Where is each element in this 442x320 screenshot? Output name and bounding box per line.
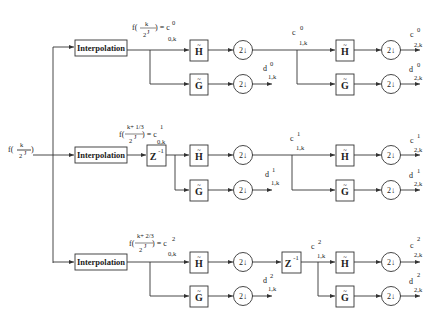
connector-line xyxy=(150,262,189,296)
diagram-label: 0 xyxy=(300,24,303,31)
diagram-label: ~ xyxy=(343,75,347,82)
diagram-label: 2↓ xyxy=(239,258,247,267)
diagram-label: Z xyxy=(285,258,292,269)
diagram-label: f( xyxy=(129,239,135,248)
diagram-label: 1 xyxy=(297,130,300,137)
connector-line xyxy=(318,262,335,296)
diagram-label: 2 xyxy=(417,235,420,242)
diagram-label: -1 xyxy=(158,147,163,154)
diagram-label: J xyxy=(147,28,150,35)
diagram-label: 2↓ xyxy=(387,292,395,301)
diagram-label: d xyxy=(263,64,267,73)
diagram-label: ~ xyxy=(197,287,201,294)
diagram-label: 2↓ xyxy=(239,80,247,89)
diagram-label: 0,k xyxy=(168,35,177,42)
diagram-label: 2↓ xyxy=(239,46,247,55)
diagram-label: -1 xyxy=(293,254,298,261)
diagram-label: 1 xyxy=(272,166,275,173)
diagram-label: 2 xyxy=(172,235,175,242)
diagram-label: ~ xyxy=(197,146,201,153)
diagram-label: 2↓ xyxy=(387,151,395,160)
diagram-label: 1,k xyxy=(271,179,280,186)
diagram-label: 1 xyxy=(417,132,420,139)
row-1: Interpolation f( k+ 1/3 2 J ) = c 1 0,k … xyxy=(53,123,423,201)
diagram-label: 0,k xyxy=(157,138,166,145)
diagram-label: ~ xyxy=(343,181,347,188)
diagram-label: d xyxy=(409,65,413,74)
diagram-label: f( xyxy=(119,130,125,139)
diagram-label: d xyxy=(265,170,269,179)
diagram-label: k+ 1/3 xyxy=(127,123,144,130)
diagram-label: f( xyxy=(8,145,14,154)
diagram-label: c xyxy=(311,242,315,251)
diagram-label: ~ xyxy=(343,146,347,153)
diagram-label: 2,k xyxy=(414,180,423,187)
filter-bank-diagram: f( k 2 J ) Interpolation f( k 2 J ) = c … xyxy=(0,0,442,320)
diagram-label: 2 xyxy=(19,152,22,159)
diagram-label: 1,k xyxy=(268,285,277,292)
diagram-label: c xyxy=(410,30,414,39)
diagram-label: 2,k xyxy=(414,74,423,81)
diagram-label: c xyxy=(410,241,414,250)
diagram-label: 2 xyxy=(143,31,146,38)
diagram-label: 2,k xyxy=(414,251,423,258)
diagram-label: 2↓ xyxy=(387,258,395,267)
diagram-label: d xyxy=(409,277,413,286)
diagram-label: ) = c xyxy=(155,23,170,32)
diagram-label: ~ xyxy=(197,75,201,82)
diagram-label: 2 xyxy=(129,137,132,144)
diagram-label: 2 xyxy=(417,271,420,278)
row-2: Interpolation f( k+ 2/3 2 J ) = c 2 0,k … xyxy=(53,232,423,307)
diagram-label: 1 xyxy=(417,167,420,174)
diagram-label: ) xyxy=(31,145,34,154)
connector-line xyxy=(150,50,189,84)
diagram-label: ~ xyxy=(343,41,347,48)
diagram-label: 1 xyxy=(160,123,163,130)
diagram-label: c xyxy=(292,28,296,37)
input-signal: f( k 2 J ) xyxy=(8,141,34,159)
diagram-label: ~ xyxy=(197,181,201,188)
diagram-label: 2 xyxy=(318,238,321,245)
diagram-label: 2 xyxy=(270,272,273,279)
diagram-label: 0 xyxy=(417,26,420,33)
diagram-label: ~ xyxy=(343,287,347,294)
connector-line xyxy=(297,50,335,84)
connector-line xyxy=(292,155,335,190)
diagram-label: 1,k xyxy=(296,144,305,151)
diagram-label: 2 xyxy=(139,246,142,253)
diagram-label: 0 xyxy=(172,19,175,26)
diagram-label: 2↓ xyxy=(387,186,395,195)
diagram-label: ) = c xyxy=(142,130,157,139)
diagram-label: 0 xyxy=(417,61,420,68)
diagram-label: 2,k xyxy=(414,286,423,293)
diagram-label: 2↓ xyxy=(387,80,395,89)
diagram-label: ~ xyxy=(197,253,201,260)
diagram-label: c xyxy=(410,136,414,145)
diagram-label: 0 xyxy=(270,60,273,67)
diagram-label: 1,k xyxy=(268,73,277,80)
diagram-label: Interpolation xyxy=(77,150,125,160)
diagram-label: 2↓ xyxy=(239,151,247,160)
diagram-label: 1,k xyxy=(299,39,308,46)
diagram-label: k xyxy=(145,20,149,27)
diagram-label: Interpolation xyxy=(77,257,125,267)
diagram-label: f( xyxy=(132,23,138,32)
diagram-label: 2↓ xyxy=(387,46,395,55)
diagram-label: k+ 2/3 xyxy=(137,232,154,239)
diagram-label: 2,k xyxy=(414,146,423,153)
diagram-label: d xyxy=(263,276,267,285)
diagram-label: 2↓ xyxy=(239,292,247,301)
diagram-label: 2↓ xyxy=(239,186,247,195)
diagram-label: 1,k xyxy=(317,252,326,259)
diagram-label: Interpolation xyxy=(77,43,125,53)
row-0: Interpolation f( k 2 J ) = c 0 0,k H ~ G… xyxy=(53,19,423,95)
diagram-label: 2,k xyxy=(414,41,423,48)
diagram-label: ~ xyxy=(343,253,347,260)
diagram-label: ) = c xyxy=(152,239,167,248)
diagram-label: d xyxy=(409,171,413,180)
diagram-label: k xyxy=(20,141,24,148)
connector-line xyxy=(175,155,189,190)
diagram-label: 0,k xyxy=(168,250,177,257)
diagram-label: ~ xyxy=(197,41,201,48)
diagram-label: c xyxy=(290,134,294,143)
